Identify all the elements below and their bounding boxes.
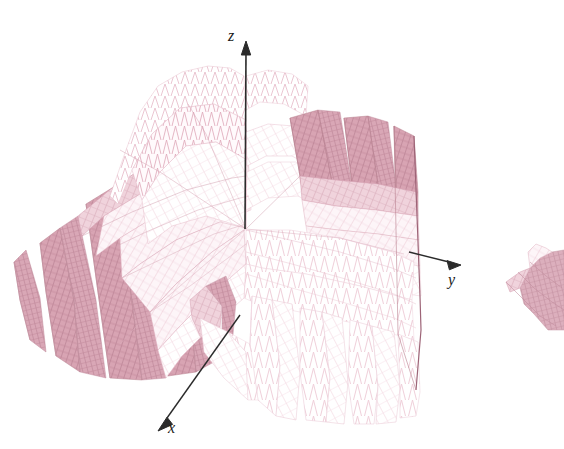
secondary-figure-cropped	[506, 244, 564, 330]
x-axis-label: x	[168, 420, 175, 436]
z-axis-label: z	[228, 28, 234, 44]
surface-plot-figure: z y x	[0, 0, 564, 449]
surface-plot-canvas	[0, 0, 564, 449]
y-axis-label: y	[448, 272, 455, 288]
